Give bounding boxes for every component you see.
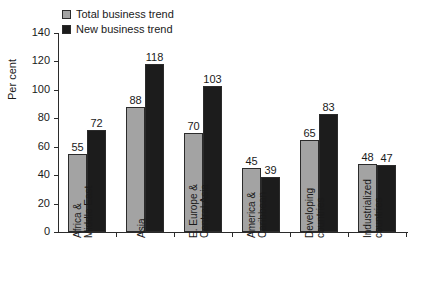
x-tick-separator-6 — [406, 232, 407, 237]
legend-swatch-total-business-trend — [62, 10, 71, 19]
bar-new-asia: 118 — [145, 64, 164, 232]
y-axis-title: Per cent — [6, 59, 18, 100]
bar-group-asia: 88 118 — [126, 33, 164, 232]
y-tick-20: 20 — [54, 204, 58, 205]
y-tick-label-140: 140 — [32, 26, 50, 38]
x-tick-separator-1 — [116, 232, 117, 237]
legend-label-total-business-trend: Total business trend — [76, 9, 174, 20]
x-tick-separator-2 — [174, 232, 175, 237]
x-axis-label-line-1: America & — [246, 192, 257, 238]
x-axis-label-africa-middle-east: Africa & Middle East — [72, 186, 94, 238]
x-axis-label-line-1: E. Europe & — [188, 184, 199, 238]
y-tick-40: 40 — [54, 175, 58, 176]
bar-value-total-developing-countries: 65 — [303, 127, 315, 139]
plot-area: 140 120 100 80 60 40 20 0 — [58, 33, 408, 232]
bar-total-asia: 88 — [126, 107, 145, 232]
x-tick-separator-4 — [290, 232, 291, 237]
y-tick-label-100: 100 — [32, 83, 50, 95]
x-axis-label-line-2: Central Asia — [199, 184, 210, 238]
x-axis-label-e-europe-central-asia: E. Europe & Central Asia — [188, 184, 210, 238]
x-axis-label-line-2: countries — [315, 188, 326, 238]
x-axis-label-line-2: Caribbean — [257, 192, 268, 238]
y-tick-120: 120 — [54, 61, 58, 62]
y-tick-label-40: 40 — [38, 168, 50, 180]
bar-chart: Total business trend New business trend … — [0, 0, 422, 308]
bar-value-new-industrialized-countries: 47 — [380, 152, 392, 164]
bar-value-total-e-europe-central-asia: 70 — [187, 120, 199, 132]
x-axis-line — [58, 232, 408, 233]
y-tick-60: 60 — [54, 147, 58, 148]
x-axis-label-america-caribbean: America & Caribbean — [246, 192, 268, 238]
legend-item-total-business-trend: Total business trend — [62, 8, 174, 21]
y-tick-label-120: 120 — [32, 54, 50, 66]
x-axis-label-line-1: Developing — [304, 188, 315, 238]
y-tick-140: 140 — [54, 33, 58, 34]
x-axis-label-line-2: Middle East — [83, 186, 94, 238]
y-tick-label-80: 80 — [38, 111, 50, 123]
y-tick-100: 100 — [54, 90, 58, 91]
bar-value-total-america-caribbean: 45 — [245, 155, 257, 167]
y-tick-0: 0 — [54, 232, 58, 233]
bar-value-new-asia: 118 — [146, 51, 164, 63]
bar-value-total-industrialized-countries: 48 — [361, 151, 373, 163]
bar-value-new-africa-middle-east: 72 — [90, 117, 102, 129]
x-tick-separator-5 — [348, 232, 349, 237]
y-tick-label-20: 20 — [38, 197, 50, 209]
y-tick-80: 80 — [54, 118, 58, 119]
bar-value-new-e-europe-central-asia: 103 — [203, 73, 221, 85]
bar-value-total-asia: 88 — [129, 94, 141, 106]
bar-value-total-africa-middle-east: 55 — [71, 141, 83, 153]
x-axis-label-industrialized-countries: Industrialized countries — [362, 179, 384, 238]
x-axis-label-line-2: countries — [373, 179, 384, 238]
x-axis-label-line-1: Asia — [136, 219, 147, 238]
bar-value-new-america-caribbean: 39 — [264, 164, 276, 176]
x-axis-label-developing-countries: Developing countries — [304, 188, 326, 238]
y-tick-label-0: 0 — [44, 225, 50, 237]
x-axis-label-line-1: Industrialized — [362, 179, 373, 238]
x-tick-separator-3 — [232, 232, 233, 237]
y-tick-label-60: 60 — [38, 140, 50, 152]
bar-value-new-developing-countries: 83 — [322, 101, 334, 113]
chart-legend: Total business trend New business trend — [62, 8, 174, 36]
x-axis-label-line-1: Africa & — [72, 186, 83, 238]
x-axis-label-asia: Asia — [136, 219, 147, 238]
y-axis-line — [58, 33, 59, 232]
